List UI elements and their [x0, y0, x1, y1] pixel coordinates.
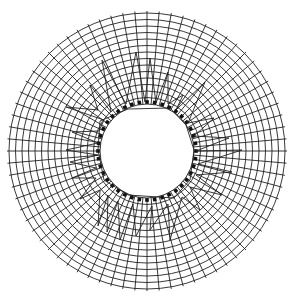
- radial-mesh-figure: [0, 0, 291, 302]
- mesh-radial-lines: [7, 11, 287, 291]
- mesh-radial-line: [20, 171, 104, 210]
- boundary-marker: [173, 188, 178, 193]
- mesh-radial-line: [190, 92, 274, 131]
- boundary-marker: [193, 157, 197, 161]
- boundary-marker: [153, 197, 157, 201]
- boundary-marker: [137, 101, 141, 105]
- boundary-marker: [105, 177, 110, 182]
- mesh-radial-line: [20, 92, 104, 131]
- boundary-marker: [145, 198, 149, 202]
- boundary-marker: [145, 100, 149, 104]
- diagram-canvas: Radial mesh around circular opening with…: [0, 0, 291, 302]
- mesh-radial-line: [167, 194, 206, 278]
- boundary-marker: [105, 120, 110, 125]
- boundary-marker: [137, 197, 141, 201]
- boundary-markers: [96, 100, 198, 202]
- boundary-marker: [193, 141, 197, 145]
- mesh-radial-line: [167, 24, 206, 108]
